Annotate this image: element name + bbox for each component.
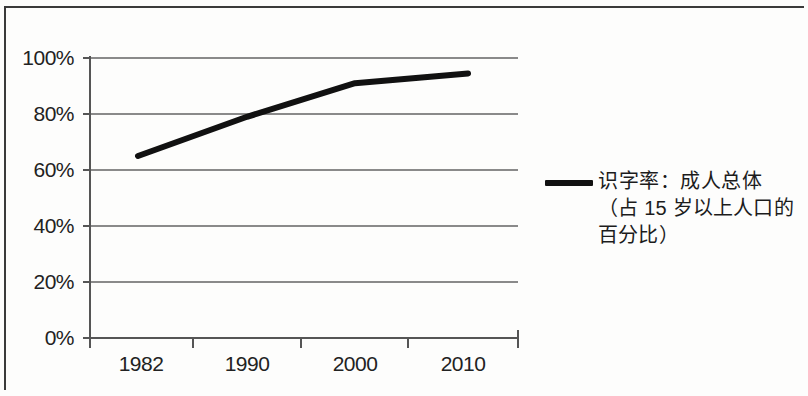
x-axis-label-2000: 2000 [305,352,405,376]
chart-legend: 识字率：成人总体 （占 15 岁以上人口的 百分比） [545,168,801,249]
x-axis-label-2010: 2010 [413,352,513,376]
x-axis-label-1982: 1982 [91,352,191,376]
gridlines [90,58,518,282]
legend-item-literacy-rate: 识字率：成人总体 （占 15 岁以上人口的 百分比） [545,168,801,249]
y-axis-label-80: 80% [6,102,74,126]
legend-label-line-2: （占 15 岁以上人口的 [598,195,801,222]
y-axis-label-0: 0% [6,326,74,350]
chart-page: 100% 80% 60% 40% 20% 0% 1982 1990 2000 2… [0,0,808,396]
legend-line-swatch-icon [545,180,593,186]
y-axis-label-40: 40% [6,214,74,238]
literacy-rate-line-chart: 100% 80% 60% 40% 20% 0% 1982 1990 2000 2… [0,0,808,396]
y-axis-label-60: 60% [6,158,74,182]
legend-label-line-3: 百分比） [598,222,801,249]
legend-label-line-1: 识字率：成人总体 [598,168,801,195]
y-axis-ticks [83,58,90,338]
x-axis-ticks [90,338,518,348]
y-axis-label-100: 100% [6,46,74,70]
y-axis-label-20: 20% [6,270,74,294]
x-axis-label-1990: 1990 [197,352,297,376]
